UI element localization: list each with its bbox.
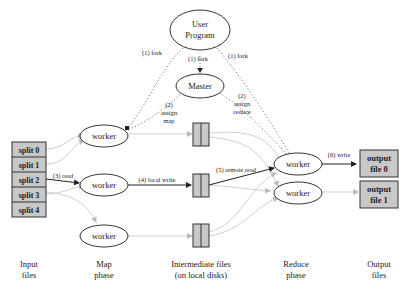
input-splits: split 0 split 1 split 2 split 3 split 4 bbox=[12, 142, 46, 217]
map-worker-2: worker bbox=[80, 174, 128, 196]
phase-intermediate-line1: Intermediate files bbox=[171, 259, 231, 269]
output-file-1: output file 1 bbox=[360, 181, 398, 208]
phase-map-line1: Map bbox=[96, 259, 112, 269]
master-node: Master bbox=[176, 74, 224, 98]
phase-intermediate-line2: (on local disks) bbox=[175, 270, 228, 280]
assign-map-line2: assign bbox=[161, 109, 178, 116]
split-0: split 0 bbox=[19, 146, 40, 155]
user-program-line2: Program bbox=[185, 30, 215, 40]
intermediate-file-1 bbox=[193, 123, 209, 146]
intermediate-file-3 bbox=[193, 224, 209, 247]
mapreduce-execution-diagram: User Program Master (1) fork (1) fork (1… bbox=[0, 0, 412, 292]
output-file-0-line1: output bbox=[367, 153, 391, 163]
split-1: split 1 bbox=[19, 161, 40, 170]
read-label: (3) read bbox=[53, 172, 74, 180]
split-4: split 4 bbox=[19, 206, 40, 215]
local-write-label: (4) local write bbox=[139, 176, 176, 184]
map-worker-2-label: worker bbox=[92, 180, 116, 190]
output-file-0: output file 0 bbox=[360, 150, 398, 177]
map-worker-3-label: worker bbox=[92, 231, 116, 241]
phase-output-line2: files bbox=[372, 270, 387, 280]
fork-left-label: (1) fork bbox=[142, 49, 163, 57]
split-3: split 3 bbox=[19, 191, 40, 200]
map-worker-1-label: worker bbox=[92, 131, 116, 141]
map-worker-1: worker bbox=[80, 125, 128, 147]
output-file-0-line2: file 0 bbox=[370, 164, 388, 174]
reduce-worker-2: worker bbox=[274, 182, 322, 204]
assign-map-line3: map bbox=[163, 117, 174, 124]
reduce-worker-1-label: worker bbox=[286, 159, 310, 169]
assign-reduce-line2: assign bbox=[234, 100, 251, 107]
map-worker-3: worker bbox=[80, 225, 128, 247]
fork-center-label: (1) fork bbox=[188, 55, 209, 63]
split-2: split 2 bbox=[19, 176, 40, 185]
assign-reduce-line1: (2) bbox=[238, 92, 246, 100]
phase-map-line2: phase bbox=[94, 270, 114, 280]
fork-right-label: (1) fork bbox=[228, 52, 249, 60]
phase-input-line1: Input bbox=[20, 259, 39, 269]
master-label: Master bbox=[188, 81, 212, 91]
phase-output-line1: Output bbox=[367, 259, 391, 269]
user-program-line1: User bbox=[192, 19, 208, 29]
output-file-1-line2: file 1 bbox=[370, 195, 388, 205]
assign-reduce-line3: reduce bbox=[233, 108, 250, 115]
reduce-worker-1: worker bbox=[274, 153, 322, 175]
dotted-edges bbox=[128, 48, 292, 158]
intermediate-file-2 bbox=[193, 174, 209, 197]
phase-input-line2: files bbox=[22, 270, 37, 280]
phase-reduce-line1: Reduce bbox=[283, 259, 309, 269]
assign-map-line1: (2) bbox=[165, 101, 173, 109]
reduce-worker-2-label: worker bbox=[286, 188, 310, 198]
remote-read-label: (5) remote read bbox=[216, 166, 257, 174]
phase-reduce-line2: phase bbox=[286, 270, 306, 280]
phase-labels: Input files Map phase Intermediate files… bbox=[20, 259, 391, 280]
output-file-1-line1: output bbox=[367, 184, 391, 194]
write-label: (6) write bbox=[328, 151, 351, 159]
user-program-node: User Program bbox=[170, 10, 230, 50]
